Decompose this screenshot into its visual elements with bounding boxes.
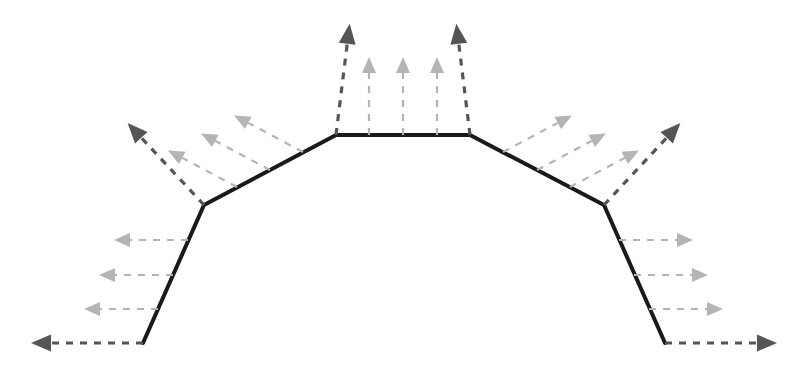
segment-normal-s1-b: [201, 133, 270, 170]
segment-normal-s1-a-shaft: [182, 158, 237, 187]
polyline-path-0: [143, 135, 665, 343]
vertex-normal-1-shaft: [141, 138, 204, 205]
segment-normal-s4-a-head: [677, 233, 693, 247]
vertex-normal-2-head: [339, 24, 356, 45]
segment-normal-s3-a: [503, 115, 572, 152]
segment-normal-s0-c-head: [114, 233, 130, 247]
segment-normal-s4-c: [649, 302, 723, 316]
vertex-normal-2-shaft: [336, 44, 347, 135]
vertex-normal-5-head: [757, 335, 777, 352]
segment-normal-s2-b: [396, 57, 410, 135]
diagram-stage: [0, 0, 811, 366]
segment-normal-s2-c: [430, 57, 444, 135]
vertex-normal-5: [665, 335, 777, 352]
vertex-normal-3-head: [450, 24, 467, 45]
vertex-normal-3-shaft: [459, 44, 470, 135]
segment-normal-s2-b-head: [396, 57, 410, 73]
segment-normal-s1-a: [168, 150, 237, 187]
vertex-normal-4-shaft: [604, 138, 667, 205]
segment-normal-s0-c: [114, 233, 188, 247]
vertex-normal-2: [336, 24, 356, 135]
vertex-normal-0: [31, 335, 143, 352]
polyline-normals-figure: [0, 0, 811, 366]
segment-normal-s2-c-head: [430, 57, 444, 73]
segment-normal-s4-b-head: [692, 268, 708, 282]
segment-normal-s0-b-head: [99, 268, 115, 282]
segment-normal-s3-a-shaft: [503, 123, 558, 152]
vertex-normal-3: [450, 24, 470, 135]
vertex-normal-1: [128, 123, 204, 205]
segment-normal-s2-a-head: [362, 57, 376, 73]
segment-normal-s4-b: [634, 268, 708, 282]
segment-normal-s3-c: [570, 150, 639, 187]
segment-normal-s3-c-shaft: [570, 158, 625, 187]
segment-normal-s1-b-shaft: [215, 141, 270, 170]
segment-normal-s2-a: [362, 57, 376, 135]
segment-normal-s3-b: [537, 133, 606, 170]
segment-normal-s3-b-shaft: [537, 141, 592, 170]
vertex-normal-4: [604, 123, 680, 205]
segment-normal-s0-a-head: [84, 302, 100, 316]
segment-normal-s1-c: [234, 115, 303, 152]
segment-normal-s4-a: [619, 233, 693, 247]
segment-normal-s0-a: [84, 302, 158, 316]
segment-normal-s0-b: [99, 268, 173, 282]
segment-normal-s1-c-shaft: [248, 123, 303, 152]
segment-normal-s4-c-head: [707, 302, 723, 316]
vertex-normal-0-head: [31, 335, 51, 352]
